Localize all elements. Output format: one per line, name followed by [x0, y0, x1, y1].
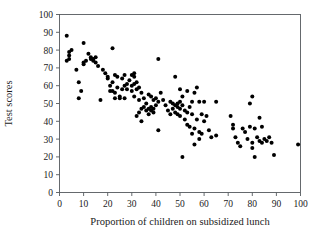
data-point [248, 102, 252, 106]
y-tick-label: 0 [48, 188, 53, 198]
data-point [77, 96, 81, 100]
data-point [296, 142, 300, 146]
data-point [130, 89, 134, 93]
x-tick-label: 70 [223, 199, 233, 209]
data-point [190, 100, 194, 104]
data-point [192, 126, 196, 130]
x-tick-label: 10 [79, 199, 89, 209]
data-point [79, 89, 83, 93]
data-point [123, 96, 127, 100]
data-point [84, 59, 88, 63]
data-point [94, 55, 98, 59]
data-point [106, 77, 110, 81]
data-point [115, 75, 119, 79]
data-point [197, 100, 201, 104]
data-point [94, 61, 98, 65]
data-point [180, 103, 184, 107]
data-point [118, 96, 122, 100]
y-tick-label: 70 [44, 63, 54, 73]
x-tick-label: 50 [175, 199, 185, 209]
data-point [137, 98, 141, 102]
data-point [154, 103, 158, 107]
data-point [132, 71, 136, 75]
data-point [265, 139, 269, 143]
data-point [159, 91, 163, 95]
data-point [188, 105, 192, 109]
data-point [144, 102, 148, 106]
x-tick-label: 80 [248, 199, 258, 209]
data-point [137, 85, 141, 89]
data-point [74, 68, 78, 72]
data-point [103, 71, 107, 75]
y-tick-label: 90 [44, 28, 54, 38]
data-point [258, 116, 262, 120]
data-point [115, 85, 119, 89]
data-point [231, 126, 235, 130]
data-point [161, 98, 165, 102]
data-point [67, 57, 71, 61]
data-point [188, 125, 192, 129]
data-point [101, 68, 105, 72]
data-point [250, 146, 254, 150]
data-point [202, 100, 206, 104]
y-tick-label: 50 [44, 99, 54, 109]
data-point [139, 119, 143, 123]
x-tick-label: 60 [199, 199, 209, 209]
data-point [135, 114, 139, 118]
y-tick-label: 30 [44, 135, 54, 145]
data-point [233, 135, 237, 139]
data-point [178, 100, 182, 104]
data-point [214, 134, 218, 138]
data-point-group [65, 34, 300, 159]
data-point [168, 112, 172, 116]
data-point [178, 107, 182, 111]
data-point [270, 141, 274, 145]
x-tick-label: 100 [293, 199, 308, 209]
data-point [149, 94, 153, 98]
data-point [132, 94, 136, 98]
y-tick-label: 60 [44, 81, 54, 91]
data-point [185, 110, 189, 114]
data-point [245, 137, 249, 141]
data-point [156, 128, 160, 132]
data-point [207, 128, 211, 132]
data-point [125, 87, 129, 91]
data-point [70, 48, 74, 52]
x-tick-label: 20 [103, 199, 113, 209]
data-point [238, 144, 242, 148]
x-tick-label: 40 [151, 199, 161, 209]
data-point [195, 118, 199, 122]
y-tick-label: 80 [44, 46, 54, 56]
data-point [120, 87, 124, 91]
chart-canvas: 0102030405060708090100010203040506070809… [0, 0, 323, 240]
data-point [190, 132, 194, 136]
data-point [200, 132, 204, 136]
data-point [139, 91, 143, 95]
data-point [214, 100, 218, 104]
data-point [178, 114, 182, 118]
data-point [178, 87, 182, 91]
data-point [142, 105, 146, 109]
data-point [173, 75, 177, 79]
data-point [253, 155, 257, 159]
data-point [243, 130, 247, 134]
data-point [202, 119, 206, 123]
data-point [132, 75, 136, 79]
data-point [236, 141, 240, 145]
data-point [151, 110, 155, 114]
y-tick-label: 20 [44, 152, 54, 162]
data-point [185, 89, 189, 93]
y-axis-title: Test scores [3, 80, 14, 126]
data-point [113, 91, 117, 95]
data-point [272, 153, 276, 157]
data-point [229, 114, 233, 118]
data-point [156, 57, 160, 61]
data-point [125, 82, 129, 86]
data-point [200, 112, 204, 116]
scatter-plot-figure: 0102030405060708090100010203040506070809… [0, 0, 323, 240]
data-point [180, 155, 184, 159]
data-point [154, 96, 158, 100]
data-point [82, 41, 86, 45]
data-point [195, 85, 199, 89]
data-point [190, 112, 194, 116]
